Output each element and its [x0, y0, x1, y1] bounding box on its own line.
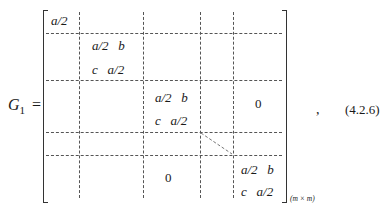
block-4-row-1: a/2 b	[241, 162, 274, 178]
block-1-row-1: a/2	[51, 13, 68, 29]
equation-number: (4.2.6)	[345, 102, 380, 118]
partition-hline-2	[46, 80, 282, 81]
comma: ,	[316, 102, 320, 118]
partition-hline-1	[46, 33, 282, 34]
block-2-row-2: c a/2	[92, 62, 124, 78]
partition-hline-3	[46, 132, 282, 133]
block-4-row-2: c a/2	[241, 184, 273, 200]
block-3-row-1: a/2 b	[155, 90, 188, 106]
partition-vline-3	[200, 12, 201, 198]
partition-hline-4	[46, 155, 282, 156]
matrix-subscript: 1	[20, 104, 26, 116]
diagonal-continuation	[200, 132, 233, 155]
matrix-symbol: G	[8, 96, 20, 113]
partition-vline-4	[233, 12, 234, 198]
right-bracket	[282, 10, 287, 203]
upper-zero-block: 0	[255, 96, 262, 112]
lower-zero-block: 0	[165, 170, 172, 186]
partition-vline-2	[143, 12, 144, 198]
block-3-row-2: c a/2	[155, 113, 187, 129]
left-bracket	[43, 10, 48, 203]
partition-vline-1	[79, 12, 80, 198]
dimension-subscript: (m × m)	[290, 194, 315, 203]
equals-sign: =	[32, 96, 41, 113]
block-2-row-1: a/2 b	[92, 38, 125, 54]
matrix-lhs-label: G1 =	[8, 96, 41, 114]
